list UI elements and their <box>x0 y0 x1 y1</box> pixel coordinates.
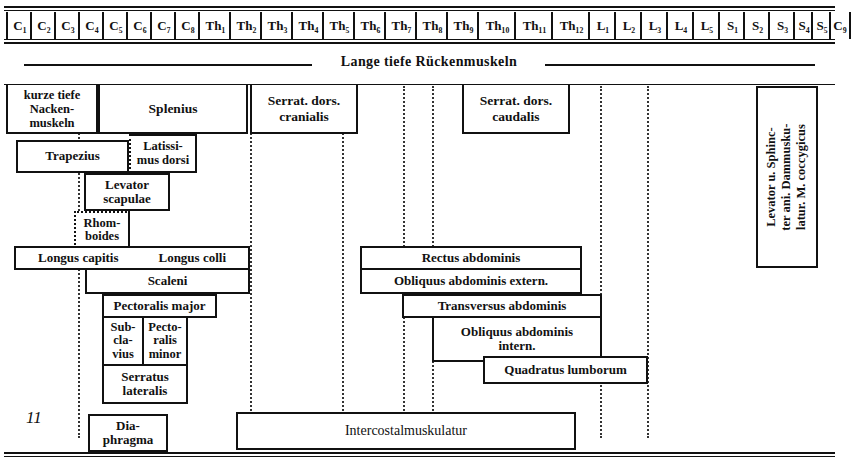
box-diaphragma[interactable]: Dia- phragma <box>88 414 168 452</box>
box-rhomboides[interactable]: Rhom- boides <box>74 211 130 249</box>
box-pectoralis-minor[interactable]: Pecto- ralis minor <box>144 318 188 366</box>
segment-guide-l1 <box>600 86 602 438</box>
vertebra-label: Th₁ <box>206 18 226 34</box>
vertebra-cell-th6[interactable]: Th₆ <box>353 12 388 39</box>
box-label: Splenius <box>149 101 198 116</box>
vertebra-label: C₁ <box>13 18 26 34</box>
box-obliquus-abdominis-externus[interactable]: Obliquus abdominis extern. <box>360 270 582 294</box>
box-longus-capitis-colli[interactable]: Longus capitis Longus colli <box>14 246 250 270</box>
vertebra-label: L₃ <box>649 18 662 34</box>
box-label: Rhom- boides <box>84 217 121 244</box>
box-label: Transversus abdominis <box>438 299 567 313</box>
vertebra-label: Th₁₀ <box>486 18 510 34</box>
box-intercostal-musculature[interactable]: Intercostalmuskulatur <box>236 412 576 450</box>
box-label: Quadratus lumborum <box>504 363 626 377</box>
header-rule-bottom <box>4 42 835 44</box>
pelvic-floor-line-1: Levator u. Sphinc- <box>765 127 779 226</box>
segment-guide-th4 <box>342 86 344 438</box>
box-serratus-lateralis[interactable]: Serratus lateralis <box>102 366 188 404</box>
band-label: Lange tiefe Rückenmuskeln <box>316 54 542 70</box>
box-scaleni[interactable]: Scaleni <box>85 270 250 294</box>
box-label: Rectus abdominis <box>422 251 521 265</box>
box-short-deep-neck-muscles[interactable]: kurze tiefe Nacken- muskeln <box>6 85 98 134</box>
box-label-longus-colli: Longus colli <box>158 251 226 265</box>
vertebra-label: Th₅ <box>330 18 350 34</box>
box-serratus-dorsalis-caudalis[interactable]: Serrat. dors. caudalis <box>462 85 570 134</box>
vertebra-label: L₄ <box>675 18 688 34</box>
box-label: Dia- phragma <box>103 419 154 447</box>
vertebra-label: S₄ <box>798 18 809 34</box>
box-transversus-abdominis[interactable]: Transversus abdominis <box>402 294 602 318</box>
box-label: Levator scapulae <box>103 178 151 206</box>
box-label: Obliquus abdominis extern. <box>394 274 548 288</box>
box-label: Obliquus abdominis intern. <box>461 325 573 353</box>
vertebra-cell-th7[interactable]: Th₇ <box>384 12 419 39</box>
box-splenius[interactable]: Splenius <box>98 85 248 134</box>
vertebra-cell-th4[interactable]: Th₄ <box>291 12 326 39</box>
body-rule-bottom-inner <box>4 456 835 457</box>
vertebra-label: S₅ <box>816 18 827 34</box>
vertebra-label: Th₁₁ <box>523 18 547 34</box>
vertebra-label: L₁ <box>597 18 610 34</box>
vertebra-label: C₃ <box>61 18 74 34</box>
vertebra-label: Th₈ <box>423 18 443 34</box>
vertebra-label: Th₁₂ <box>560 18 584 34</box>
vertebra-label: Th₉ <box>454 18 474 34</box>
vertebra-cell-th3[interactable]: Th₃ <box>260 12 295 39</box>
box-label: Serratus lateralis <box>121 370 169 398</box>
vertebra-cell-th1[interactable]: Th₁ <box>198 12 233 39</box>
vertebra-label: C₇ <box>157 18 170 34</box>
vertebra-label: C₉ <box>833 18 846 34</box>
box-quadratus-lumborum[interactable]: Quadratus lumborum <box>483 356 648 384</box>
header-rule-top <box>4 6 835 8</box>
vertebra-label: C₆ <box>133 18 146 34</box>
header-rule-bottom-inner <box>4 39 835 40</box>
vertebra-label: S₁ <box>727 18 738 34</box>
vertebra-label: L₅ <box>701 18 714 34</box>
box-rectus-abdominis[interactable]: Rectus abdominis <box>360 246 582 270</box>
box-label: Pectoralis major <box>113 299 205 313</box>
vertebra-cell-th9[interactable]: Th₉ <box>446 12 481 39</box>
header-rule-top-inner <box>4 10 835 11</box>
vertebra-label: L₂ <box>623 18 636 34</box>
vertebra-label: Th₇ <box>392 18 412 34</box>
vertebra-cell-th10[interactable]: Th₁₀ <box>477 12 518 39</box>
box-levator-scapulae[interactable]: Levator scapulae <box>84 173 170 211</box>
box-subclavius[interactable]: Sub- cla- vius <box>102 318 144 366</box>
box-label: Intercostalmuskulatur <box>345 423 467 438</box>
vertebra-label: C₅ <box>109 18 122 34</box>
pelvic-floor-line-3: latur. M. coccygicus <box>794 124 808 230</box>
box-label: Serrat. dors. cranialis <box>268 93 340 123</box>
band-rule-right <box>545 64 815 66</box>
box-label: Latissi- mus dorsi <box>137 140 189 167</box>
vertebra-label: Th₆ <box>361 18 381 34</box>
box-label: Sub- cla- vius <box>110 321 135 362</box>
band-rule-left <box>24 64 312 66</box>
box-serratus-dorsalis-cranialis[interactable]: Serrat. dors. cranialis <box>250 85 358 134</box>
body-rule-bottom <box>4 452 835 454</box>
vertebra-label: Th₃ <box>268 18 288 34</box>
page-number: 11 <box>26 408 42 428</box>
pelvic-floor-rotated-text: Levator u. Sphinc- ter ani. Dammusku- la… <box>765 123 809 230</box>
segment-guide-th1 <box>250 86 252 438</box>
vertebra-cell-th12[interactable]: Th₁₂ <box>551 12 592 39</box>
box-label: Pecto- ralis minor <box>148 321 181 362</box>
vertebra-cell-th5[interactable]: Th₅ <box>322 12 357 39</box>
vertebra-label: Th₄ <box>299 18 319 34</box>
vertebra-label: S₃ <box>777 18 788 34</box>
box-label: Trapezius <box>45 149 100 163</box>
vertebra-label: C₈ <box>181 18 194 34</box>
box-trapezius[interactable]: Trapezius <box>16 140 129 173</box>
vertebra-cell-c9[interactable]: C₉ <box>829 12 851 39</box>
box-pelvic-floor-muscles[interactable]: Levator u. Sphinc- ter ani. Dammusku- la… <box>756 86 818 268</box>
vertebra-cell-th8[interactable]: Th₈ <box>415 12 450 39</box>
box-latissimus-dorsi[interactable]: Latissi- mus dorsi <box>129 134 197 173</box>
box-label: kurze tiefe Nacken- muskeln <box>24 88 81 130</box>
vertebra-cell-th2[interactable]: Th₂ <box>229 12 264 39</box>
vertebra-cell-th11[interactable]: Th₁₁ <box>514 12 555 39</box>
segment-guide-l2 <box>647 86 649 438</box>
pelvic-floor-line-2: ter ani. Dammusku- <box>780 123 794 230</box>
box-label-longus-capitis: Longus capitis <box>38 251 119 265</box>
box-pectoralis-major[interactable]: Pectoralis major <box>102 294 217 318</box>
